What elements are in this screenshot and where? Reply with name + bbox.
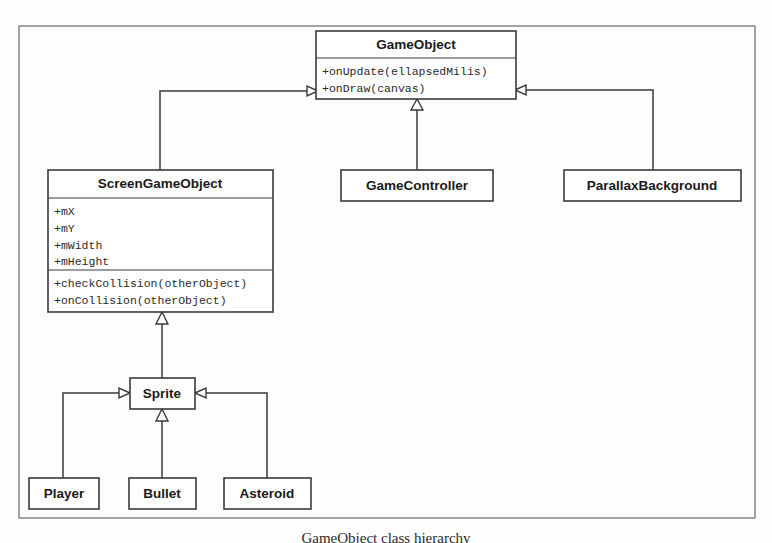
class-name-asteroid: Asteroid xyxy=(240,486,295,501)
class-box-sprite[interactable]: Sprite xyxy=(130,378,195,409)
class-attribute-screengameobject-2: +mWidth xyxy=(54,239,102,252)
class-method-gameobject-0: +onUpdate(ellapsedMilis) xyxy=(322,65,488,78)
connector-gamecontroller-to-gameobject xyxy=(411,99,423,170)
class-box-asteroid[interactable]: Asteroid xyxy=(224,478,311,509)
class-name-screengameobject: ScreenGameObject xyxy=(98,176,223,191)
uml-class-diagram: GameObject +onUpdate(ellapsedMilis) +onD… xyxy=(0,0,772,543)
connector-bullet-to-sprite xyxy=(156,409,168,478)
connector-sprite-to-screengameobject xyxy=(156,312,168,378)
class-name-gamecontroller: GameController xyxy=(366,178,469,193)
class-method-screengameobject-1: +onCollision(otherObject) xyxy=(54,294,227,307)
figure-caption: GameObject class hierarchy xyxy=(0,528,772,543)
class-attribute-screengameobject-3: +mHeight xyxy=(54,255,109,268)
class-attribute-screengameobject-0: +mX xyxy=(54,205,75,218)
class-box-gamecontroller[interactable]: GameController xyxy=(341,170,493,201)
connector-asteroid-to-sprite xyxy=(195,388,267,478)
connector-screengameobject-to-gameobject xyxy=(160,86,318,170)
class-box-player[interactable]: Player xyxy=(29,478,99,509)
connector-player-to-sprite xyxy=(63,388,130,478)
connector-parallaxbackground-to-gameobject xyxy=(515,85,653,170)
class-method-screengameobject-0: +checkCollision(otherObject) xyxy=(54,277,247,290)
class-name-sprite: Sprite xyxy=(143,386,182,401)
class-box-bullet[interactable]: Bullet xyxy=(129,478,196,509)
class-name-parallaxbackground: ParallaxBackground xyxy=(587,178,718,193)
class-name-gameobject: GameObject xyxy=(376,37,456,52)
diagram-page: GameObject +onUpdate(ellapsedMilis) +onD… xyxy=(0,0,772,543)
class-box-parallaxbackground[interactable]: ParallaxBackground xyxy=(564,170,741,201)
class-attribute-screengameobject-1: +mY xyxy=(54,222,75,235)
class-method-gameobject-1: +onDraw(canvas) xyxy=(322,82,426,95)
class-box-gameobject[interactable]: GameObject +onUpdate(ellapsedMilis) +onD… xyxy=(316,31,516,99)
class-name-bullet: Bullet xyxy=(143,486,181,501)
class-box-screengameobject[interactable]: ScreenGameObject +mX +mY +mWidth +mHeigh… xyxy=(48,170,273,312)
class-name-player: Player xyxy=(44,486,85,501)
